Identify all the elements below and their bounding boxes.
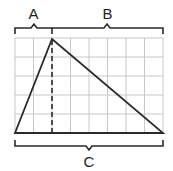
brace-b [52,24,163,34]
triangle-diagram: A B C [0,0,173,171]
grid [15,38,163,133]
brace-c [15,140,163,150]
brace-a [15,24,52,34]
label-a: A [28,5,38,22]
label-c: C [84,153,95,170]
label-b: B [102,5,112,22]
